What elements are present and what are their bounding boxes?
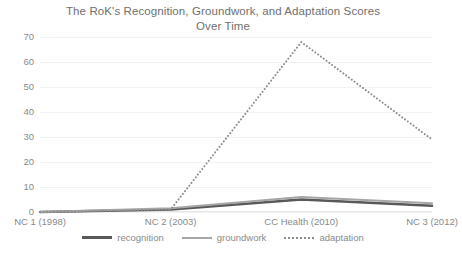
y-axis-tick-label: 30 xyxy=(4,132,34,142)
x-axis-tick-label: NC 1 (1998) xyxy=(0,216,95,227)
legend-item-adaptation[interactable]: adaptation xyxy=(284,232,363,243)
legend-swatch-groundwork-icon xyxy=(182,233,212,243)
legend-swatch-recognition-icon xyxy=(82,233,112,243)
legend-label: groundwork xyxy=(217,232,267,243)
y-axis-tick-label: 60 xyxy=(4,57,34,67)
x-axis-tick-label: NC 3 (2012) xyxy=(377,216,462,227)
legend-swatch-adaptation-icon xyxy=(284,233,314,243)
plot-area xyxy=(40,37,432,212)
legend-label: adaptation xyxy=(319,232,363,243)
series-line-adaptation xyxy=(40,42,432,212)
y-axis-tick-label: 40 xyxy=(4,107,34,117)
x-axis-tick-label: CC Health (2010) xyxy=(246,216,356,227)
chart-title: The RoK's Recognition, Groundwork, and A… xyxy=(0,4,446,34)
chart-title-line-1: The RoK's Recognition, Groundwork, and A… xyxy=(0,4,446,19)
legend-label: recognition xyxy=(117,232,163,243)
y-axis-tick-label: 20 xyxy=(4,157,34,167)
y-axis-tick-label: 70 xyxy=(4,32,34,42)
legend-item-recognition[interactable]: recognition xyxy=(82,232,163,243)
x-axis-tick-label: NC 2 (2003) xyxy=(116,216,226,227)
legend-item-groundwork[interactable]: groundwork xyxy=(182,232,267,243)
chart-title-line-2: Over Time xyxy=(0,19,446,34)
chart-legend: recognitiongroundworkadaptation xyxy=(0,232,446,243)
series-lines xyxy=(40,37,432,212)
y-axis-tick-label: 50 xyxy=(4,82,34,92)
y-axis-tick-label: 10 xyxy=(4,182,34,192)
